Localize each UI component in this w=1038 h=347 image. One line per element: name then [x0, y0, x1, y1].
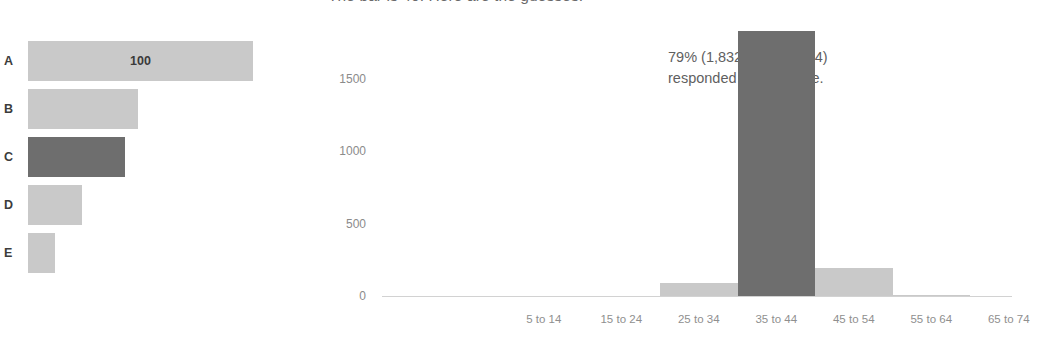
y-axis-tick-label: 500 — [306, 217, 366, 231]
bar-row: C — [0, 137, 300, 177]
bar-row: D — [0, 185, 300, 225]
bar-track — [28, 89, 138, 129]
histogram-bar — [815, 268, 893, 296]
bar-fill — [28, 185, 82, 225]
bar-track — [28, 233, 55, 273]
bar-category-label: D — [4, 185, 13, 225]
bar-track: 100 — [28, 41, 253, 81]
bar-track — [28, 185, 82, 225]
x-axis-tick-label: 5 to 14 — [526, 313, 561, 325]
x-axis-line — [382, 296, 1012, 297]
bar-category-label: E — [4, 233, 12, 273]
x-axis-tick-label: 15 to 24 — [600, 313, 642, 325]
bar-row: E — [0, 233, 300, 273]
bar-value-label: 100 — [28, 41, 253, 81]
x-axis-tick-label: 25 to 34 — [678, 313, 720, 325]
guess-distribution-bar-chart: A100BCDE — [0, 0, 300, 260]
histogram-bar — [660, 283, 738, 296]
response-histogram: 050010001500 79% (1,832 out of 2,354) re… — [300, 0, 1038, 347]
x-axis-tick-label: 55 to 64 — [910, 313, 952, 325]
bar-fill — [28, 137, 125, 177]
y-axis-tick-label: 1500 — [306, 72, 366, 86]
bar-category-label: A — [4, 41, 13, 81]
x-axis-tick-label: 35 to 44 — [755, 313, 797, 325]
bar-row: B — [0, 89, 300, 129]
histogram-bar — [893, 295, 971, 296]
x-axis-tick-label: 65 to 74 — [988, 313, 1030, 325]
bar-category-label: B — [4, 89, 13, 129]
bar-category-label: C — [4, 137, 13, 177]
bar-fill — [28, 233, 55, 273]
x-axis-tick-label: 45 to 54 — [833, 313, 875, 325]
histogram-bar — [738, 31, 816, 296]
bar-row: A100 — [0, 41, 300, 81]
bar-fill — [28, 89, 138, 129]
y-axis-tick-label: 1000 — [306, 144, 366, 158]
bar-track — [28, 137, 125, 177]
y-axis-tick-label: 0 — [306, 289, 366, 303]
